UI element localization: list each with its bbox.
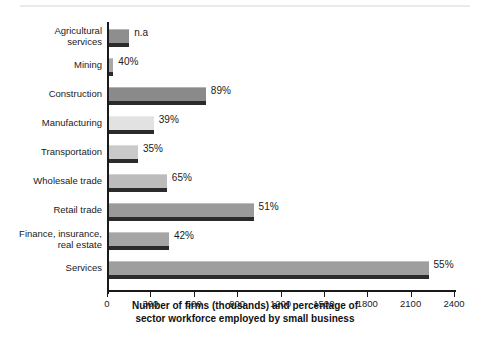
bar-shadow xyxy=(109,130,154,134)
tick-mark xyxy=(454,292,455,297)
category-label: Construction xyxy=(0,89,102,100)
plot-area: Agricultural servicesn.aMining40%Constru… xyxy=(0,18,490,288)
category-label: Finance, insurance, real estate xyxy=(0,229,102,250)
category-label: Services xyxy=(0,263,102,274)
bar-row: Finance, insurance, real estate42% xyxy=(0,229,490,258)
category-label: Wholesale trade xyxy=(0,176,102,187)
bar-shadow xyxy=(109,188,167,192)
bar xyxy=(109,203,254,223)
bar-row: Services55% xyxy=(0,258,490,287)
bar-shadow xyxy=(109,159,138,163)
tick-mark xyxy=(237,292,238,297)
bar xyxy=(109,261,429,281)
bar xyxy=(109,232,169,252)
bar xyxy=(109,58,113,78)
tick-mark xyxy=(107,292,108,297)
bar-fill xyxy=(109,261,429,276)
tick-mark xyxy=(281,292,282,297)
bar-row: Transportation35% xyxy=(0,142,490,171)
bar-shadow xyxy=(109,275,429,279)
bar xyxy=(109,174,167,194)
bar-value-label: 55% xyxy=(434,259,454,270)
bar xyxy=(109,29,129,49)
tick-mark xyxy=(194,292,195,297)
bar-fill xyxy=(109,203,254,218)
bar-value-label: n.a xyxy=(134,27,148,38)
bar xyxy=(109,87,206,107)
bar-value-label: 89% xyxy=(211,85,231,96)
bar-chart-figure: Agricultural servicesn.aMining40%Constru… xyxy=(0,0,490,344)
bar-row: Construction89% xyxy=(0,84,490,113)
tick-mark xyxy=(411,292,412,297)
bar-value-label: 51% xyxy=(259,201,279,212)
bar-row: Agricultural servicesn.a xyxy=(0,26,490,55)
category-label: Mining xyxy=(0,60,102,71)
bar xyxy=(109,116,154,136)
bar-value-label: 65% xyxy=(172,172,192,183)
tick-mark xyxy=(324,292,325,297)
bar-fill xyxy=(109,145,138,160)
bar-shadow xyxy=(109,101,206,105)
top-divider-rule xyxy=(20,5,470,7)
bar-row: Manufacturing39% xyxy=(0,113,490,142)
category-label: Retail trade xyxy=(0,205,102,216)
x-axis-title-line2: sector workforce employed by small busin… xyxy=(0,313,490,326)
bar-row: Wholesale trade65% xyxy=(0,171,490,200)
category-label: Agricultural services xyxy=(0,26,102,47)
tick-mark xyxy=(367,292,368,297)
bar-fill xyxy=(109,29,129,44)
bar-shadow xyxy=(109,217,254,221)
bar-shadow xyxy=(109,43,129,47)
bar-fill xyxy=(109,87,206,102)
bar-fill xyxy=(109,116,154,131)
tick-mark xyxy=(150,292,151,297)
bar-shadow xyxy=(109,246,169,250)
category-label: Transportation xyxy=(0,147,102,158)
bar-row: Retail trade51% xyxy=(0,200,490,229)
bar-value-label: 42% xyxy=(174,230,194,241)
bar-value-label: 39% xyxy=(159,114,179,125)
bar-fill xyxy=(109,232,169,247)
x-axis-title: Number of firms (thousands) and percenta… xyxy=(0,300,490,325)
bar-row: Mining40% xyxy=(0,55,490,84)
bar-fill xyxy=(109,174,167,189)
x-axis-title-line1: Number of firms (thousands) and percenta… xyxy=(0,300,490,313)
bar xyxy=(109,145,138,165)
bar-value-label: 35% xyxy=(143,143,163,154)
category-label: Manufacturing xyxy=(0,118,102,129)
bar-value-label: 40% xyxy=(118,56,138,67)
bar-shadow xyxy=(109,72,113,76)
bar-fill xyxy=(109,58,113,73)
